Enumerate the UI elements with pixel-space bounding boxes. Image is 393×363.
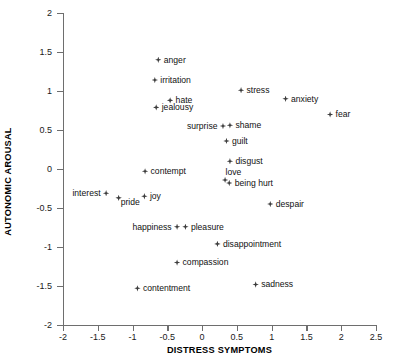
y-tick-mark (57, 52, 63, 53)
data-point-label: irritation (160, 76, 191, 85)
data-point-marker (252, 281, 258, 287)
data-point-marker (152, 77, 158, 83)
data-point-label: love (226, 168, 242, 177)
y-tick-mark (57, 208, 63, 209)
x-tick-label: 2.5 (356, 332, 393, 342)
x-tick-mark (272, 325, 273, 331)
y-tick-label: 1.5 (6, 47, 52, 57)
data-point-marker (174, 259, 180, 265)
data-point-label: despair (276, 200, 304, 209)
y-tick-mark (57, 130, 63, 131)
y-axis-line (63, 13, 64, 326)
x-tick-mark (133, 325, 134, 331)
data-point-label: fear (336, 110, 351, 119)
data-point-marker (155, 57, 161, 63)
data-point-marker (174, 224, 180, 230)
data-point-label: jealousy (162, 103, 194, 112)
data-point-label: shame (235, 121, 261, 130)
x-tick-mark (167, 325, 168, 331)
y-tick-label: 0.5 (6, 125, 52, 135)
y-tick-label: -1 (6, 242, 52, 252)
y-tick-mark (57, 169, 63, 170)
x-tick-mark (306, 325, 307, 331)
data-point-marker (220, 123, 226, 129)
x-axis-title: DISTRESS SYMPTOMS (63, 345, 376, 355)
data-point-label: being hurt (235, 179, 273, 188)
x-tick-mark (237, 325, 238, 331)
y-tick-mark (57, 286, 63, 287)
data-point-label: stress (247, 86, 270, 95)
data-point-marker (214, 241, 220, 247)
y-tick-label: 1 (6, 86, 52, 96)
y-tick-mark (57, 247, 63, 248)
y-tick-label: 0 (6, 164, 52, 174)
data-point-label: anxiety (291, 95, 318, 104)
data-point-label: contentment (143, 284, 190, 293)
y-tick-label: -2 (6, 320, 52, 330)
data-point-marker (142, 168, 148, 174)
data-point-marker (282, 96, 288, 102)
y-tick-mark (57, 91, 63, 92)
x-tick-mark (63, 325, 64, 331)
data-point-marker (226, 180, 232, 186)
data-point-label: pride (121, 198, 140, 207)
data-point-label: disappointment (223, 240, 281, 249)
y-tick-label: -1.5 (6, 281, 52, 291)
data-point-marker (227, 122, 233, 128)
data-point-label: happiness (132, 223, 171, 232)
y-tick-label: 2 (6, 8, 52, 18)
data-point-label: surprise (187, 122, 218, 131)
data-point-marker (153, 104, 159, 110)
x-axis-line (63, 325, 377, 326)
data-point-marker (223, 138, 229, 144)
data-point-label: interest (72, 189, 100, 198)
data-point-label: anger (164, 56, 186, 65)
data-point-marker (222, 177, 228, 183)
data-point-marker (103, 190, 109, 196)
x-tick-mark (341, 325, 342, 331)
data-point-marker (182, 224, 188, 230)
scatter-chart: AUTONOMIC AROUSAL DISTRESS SYMPTOMS 21.5… (0, 0, 393, 363)
y-tick-mark (57, 13, 63, 14)
data-point-marker (327, 111, 333, 117)
data-point-label: disgust (235, 157, 262, 166)
data-point-marker (267, 201, 273, 207)
data-point-label: pleasure (191, 223, 224, 232)
data-point-label: joy (150, 192, 161, 201)
data-point-marker (227, 158, 233, 164)
y-tick-label: -0.5 (6, 203, 52, 213)
x-tick-mark (202, 325, 203, 331)
data-point-marker (134, 285, 140, 291)
data-point-label: compassion (183, 258, 229, 267)
data-point-label: sadness (261, 280, 293, 289)
x-tick-mark (98, 325, 99, 331)
data-point-marker (238, 87, 244, 93)
x-tick-mark (376, 325, 377, 331)
data-point-label: contempt (151, 167, 186, 176)
data-point-marker (141, 193, 147, 199)
data-point-label: guilt (232, 137, 248, 146)
